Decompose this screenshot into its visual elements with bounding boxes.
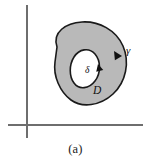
- figure-graphic: γ δ D: [0, 0, 151, 142]
- label-delta: δ: [85, 65, 90, 75]
- figure-panel: γ δ D (a): [0, 0, 151, 168]
- annulus-region-group: [55, 22, 127, 105]
- figure-caption: (a): [0, 142, 151, 157]
- label-region-d: D: [92, 84, 102, 96]
- label-gamma: γ: [126, 44, 131, 56]
